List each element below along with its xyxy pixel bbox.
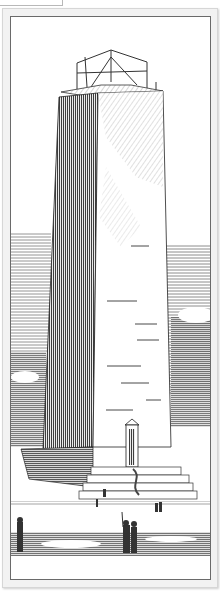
doorway [125,419,139,467]
image-plate [2,8,218,588]
engraving-frame [10,16,211,580]
obelisk-engraving [11,17,210,579]
ground [11,501,210,556]
obelisk-shaft-left-face [43,93,98,449]
top-rule-line [0,0,63,6]
stepped-base [21,447,197,499]
